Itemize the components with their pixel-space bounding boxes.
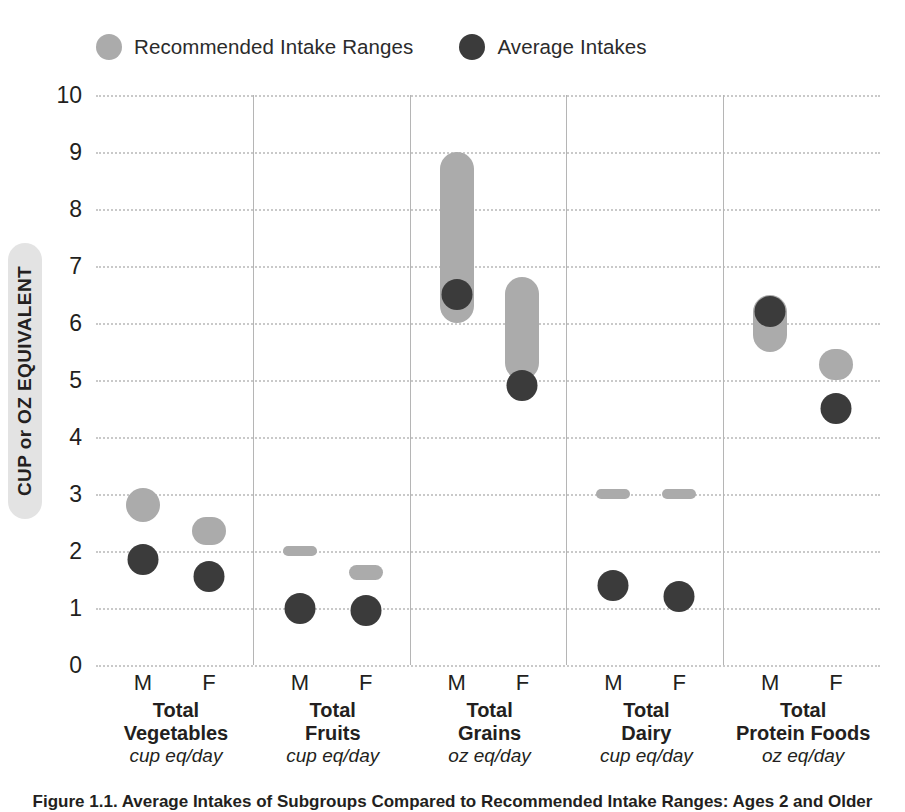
legend-label-recommended: Recommended Intake Ranges: [134, 35, 413, 59]
average-dot: [755, 296, 786, 327]
range-bar: [662, 489, 696, 499]
average-dot: [284, 593, 315, 624]
y-axis-tick-label: 8: [69, 196, 82, 223]
group-unit-label: cup eq/day: [286, 745, 379, 766]
range-bar: [505, 277, 539, 380]
x-axis-sex-label: F: [359, 670, 372, 696]
panel-separator: [253, 95, 254, 665]
x-axis-sex-label: F: [829, 670, 842, 696]
x-axis-sex-label: M: [761, 670, 779, 696]
gridline: [96, 95, 880, 97]
group-name-line: Dairy: [600, 722, 693, 745]
x-axis: MFTotalVegetablescup eq/dayMFTotalFruits…: [96, 665, 880, 785]
group-name-line: Total: [736, 699, 870, 722]
figure-caption: Figure 1.1. Average Intakes of Subgroups…: [0, 792, 905, 812]
group-name-line: Total: [600, 699, 693, 722]
range-bar: [126, 488, 160, 522]
x-axis-sex-label: F: [202, 670, 215, 696]
range-bar: [819, 349, 853, 380]
plot-area: 012345678910: [96, 95, 880, 665]
gridline: [96, 266, 880, 268]
average-dot: [350, 595, 381, 626]
average-dot: [664, 581, 695, 612]
y-axis-tick-label: 3: [69, 481, 82, 508]
average-dot: [441, 279, 472, 310]
y-axis-tick-label: 0: [69, 652, 82, 679]
y-axis-tick-label: 9: [69, 139, 82, 166]
y-axis-tick-label: 5: [69, 367, 82, 394]
group-unit-label: oz eq/day: [736, 745, 870, 766]
average-dot: [598, 570, 629, 601]
y-axis-title-text: CUP or OZ EQUIVALENT: [14, 266, 36, 496]
gridline: [96, 437, 880, 439]
average-dot: [821, 393, 852, 424]
range-bar: [349, 565, 383, 579]
y-axis-tick-label: 1: [69, 595, 82, 622]
group-unit-label: cup eq/day: [124, 745, 229, 766]
x-axis-sex-label: M: [447, 670, 465, 696]
circle-swatch-icon: [96, 34, 122, 60]
gridline: [96, 152, 880, 154]
y-axis-tick-label: 10: [56, 82, 82, 109]
gridline: [96, 494, 880, 496]
panel-separator: [410, 95, 411, 665]
gridline: [96, 380, 880, 382]
x-axis-group-label: TotalGrainsoz eq/day: [448, 699, 530, 767]
group-unit-label: cup eq/day: [600, 745, 693, 766]
x-axis-group-label: TotalDairycup eq/day: [600, 699, 693, 767]
x-axis-sex-label: F: [673, 670, 686, 696]
y-axis-tick-label: 2: [69, 538, 82, 565]
range-bar: [283, 546, 317, 556]
average-dot: [128, 544, 159, 575]
panel-separator: [723, 95, 724, 665]
x-axis-sex-label: M: [134, 670, 152, 696]
y-axis-tick-label: 7: [69, 253, 82, 280]
range-bar: [596, 489, 630, 499]
x-axis-sex-label: M: [604, 670, 622, 696]
group-name-line: Fruits: [286, 722, 379, 745]
group-name-line: Total: [448, 699, 530, 722]
circle-swatch-icon: [459, 34, 485, 60]
average-dot: [507, 370, 538, 401]
x-axis-group-label: TotalProtein Foodsoz eq/day: [736, 699, 870, 767]
legend-label-average: Average Intakes: [497, 35, 646, 59]
gridline: [96, 608, 880, 610]
x-axis-group-label: TotalFruitscup eq/day: [286, 699, 379, 767]
range-bar: [192, 517, 226, 546]
x-axis-sex-label: F: [516, 670, 529, 696]
y-axis-tick-label: 4: [69, 424, 82, 451]
average-dot: [193, 561, 224, 592]
gridline: [96, 551, 880, 553]
x-axis-sex-label: M: [291, 670, 309, 696]
group-name-line: Protein Foods: [736, 722, 870, 745]
panel-separator: [566, 95, 567, 665]
chart-legend: Recommended Intake Ranges Average Intake…: [0, 26, 905, 68]
group-name-line: Total: [286, 699, 379, 722]
legend-item-recommended: Recommended Intake Ranges: [96, 34, 413, 60]
group-name-line: Total: [124, 699, 229, 722]
group-name-line: Vegetables: [124, 722, 229, 745]
legend-item-average: Average Intakes: [459, 34, 646, 60]
x-axis-group-label: TotalVegetablescup eq/day: [124, 699, 229, 767]
group-name-line: Grains: [448, 722, 530, 745]
group-unit-label: oz eq/day: [448, 745, 530, 766]
y-axis-title: CUP or OZ EQUIVALENT: [8, 243, 42, 519]
gridline: [96, 209, 880, 211]
y-axis-tick-label: 6: [69, 310, 82, 337]
